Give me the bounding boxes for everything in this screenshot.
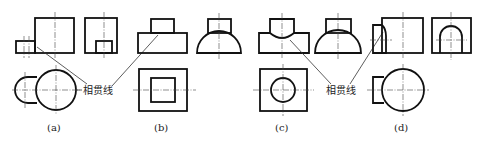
annotation-intersection-line-left: 相贯线 (83, 84, 113, 96)
a-side-view (85, 12, 117, 58)
label-a: (a) (47, 122, 61, 133)
label-d: (d) (394, 122, 408, 133)
b-front-view (138, 19, 187, 53)
b-top-view (133, 69, 196, 111)
c-top-view (253, 64, 314, 116)
c-front-view (259, 13, 309, 58)
label-c: (c) (275, 122, 289, 133)
leader-line (290, 40, 331, 84)
engineering-drawing: (a) 相贯线 (b) (0, 0, 481, 144)
a-top-view (12, 65, 80, 115)
subfigure-d: (d) (367, 12, 471, 133)
b-side-view (197, 13, 241, 60)
d-side-view (432, 12, 471, 60)
a-front-view (16, 12, 74, 58)
d-front-view (370, 12, 423, 58)
subfigure-a: (a) (12, 12, 117, 133)
d-top-view (367, 64, 429, 116)
annotation-intersection-line-right: 相贯线 (326, 84, 356, 96)
c-side-view (315, 13, 361, 60)
subfigure-b: (b) (133, 13, 241, 133)
subfigure-c: (c) (253, 13, 361, 133)
label-b: (b) (154, 122, 168, 133)
